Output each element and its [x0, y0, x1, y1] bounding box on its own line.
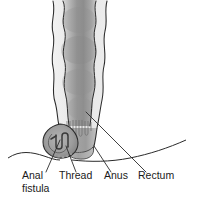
label-anal-fistula-line1: Anal	[22, 169, 43, 181]
label-rectum: Rectum	[138, 169, 174, 181]
label-anal-fistula-line2: fistula	[22, 182, 50, 194]
label-anus: Anus	[104, 169, 128, 181]
label-thread: Thread	[59, 169, 92, 181]
anal-fistula-illustration: Anal fistula Thread Anus Rectum	[0, 0, 197, 199]
illustration-canvas: Anal fistula Thread Anus Rectum	[0, 0, 197, 199]
